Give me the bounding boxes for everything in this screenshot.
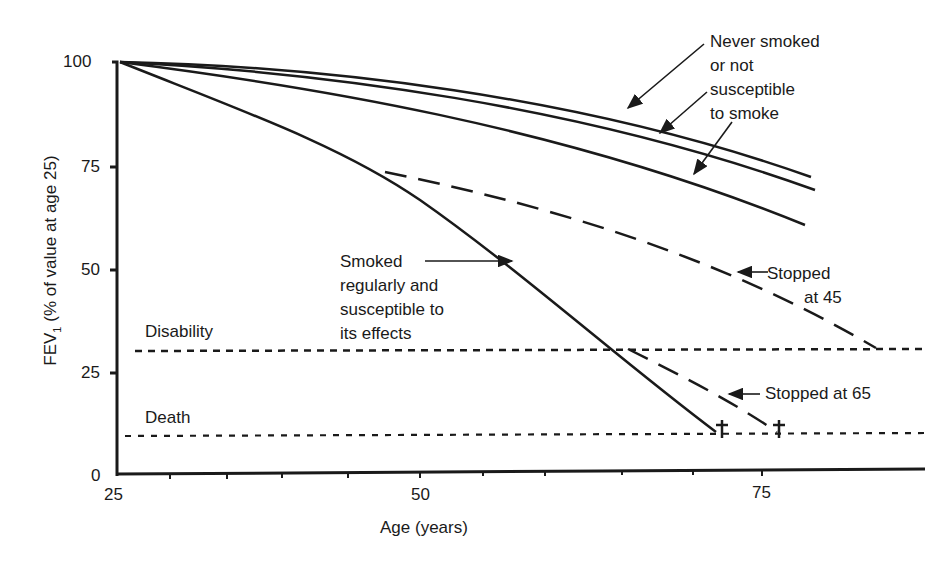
x-axis bbox=[117, 469, 925, 479]
annotation-smoked: Smoked regularly and susceptible to its … bbox=[340, 250, 444, 346]
stopped-45-curve bbox=[385, 172, 876, 348]
y-tick-75: 75 bbox=[81, 157, 100, 177]
label-death: Death bbox=[145, 408, 190, 428]
y-tick-25: 25 bbox=[81, 363, 100, 383]
smoked-line-2: regularly and bbox=[340, 274, 444, 298]
y-tick-50: 50 bbox=[81, 260, 100, 280]
annotation-never-smoked: Never smoked or not susceptible to smoke bbox=[710, 30, 820, 126]
x-tick-75: 75 bbox=[752, 483, 771, 503]
x-axis-title: Age (years) bbox=[380, 518, 468, 538]
never-smoked-line-1: Never smoked bbox=[710, 30, 820, 54]
never-smoked-line-3: susceptible bbox=[710, 78, 820, 102]
stopped-45-line-1: Stopped bbox=[767, 262, 842, 286]
x-tick-25: 25 bbox=[104, 485, 123, 505]
label-disability: Disability bbox=[145, 322, 213, 342]
disability-line bbox=[135, 349, 925, 351]
annotation-stopped-65: Stopped at 65 bbox=[765, 384, 871, 404]
y-axis bbox=[110, 62, 117, 476]
arrow-never-lower bbox=[694, 122, 732, 174]
y-axis-title-sub: 1 bbox=[51, 327, 63, 333]
death-cross-stopped-65 bbox=[773, 420, 785, 438]
y-axis-title-main: FEV bbox=[41, 333, 60, 366]
death-line bbox=[125, 433, 925, 436]
stopped-45-line-2: at 45 bbox=[767, 286, 842, 310]
never-smoked-line-2: or not bbox=[710, 54, 820, 78]
y-axis-title: FEV1 (% of value at age 25) bbox=[41, 166, 62, 366]
smoked-line-4: its effects bbox=[340, 322, 444, 346]
y-axis-title-rest: (% of value at age 25) bbox=[41, 155, 60, 326]
arrow-never-middle bbox=[660, 92, 707, 133]
never-smoked-line-4: to smoke bbox=[710, 102, 820, 126]
arrow-never-upper bbox=[628, 44, 704, 108]
smoked-line-1: Smoked bbox=[340, 250, 444, 274]
x-tick-50: 50 bbox=[411, 485, 430, 505]
death-cross-smoker bbox=[716, 420, 728, 438]
smoker-curve bbox=[120, 62, 716, 432]
y-tick-0: 0 bbox=[91, 466, 100, 486]
annotation-stopped-45: Stopped at 45 bbox=[767, 262, 842, 310]
smoked-line-3: susceptible to bbox=[340, 298, 444, 322]
y-tick-100: 100 bbox=[63, 52, 91, 72]
stopped-65-curve bbox=[628, 349, 777, 432]
